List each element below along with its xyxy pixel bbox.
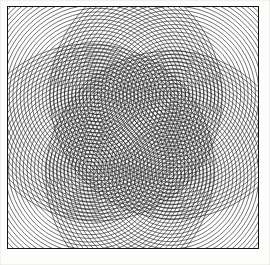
ring xyxy=(163,168,178,183)
figure-root xyxy=(0,0,270,265)
ring xyxy=(71,150,108,187)
plot-frame xyxy=(7,6,259,249)
circle-families xyxy=(8,7,258,248)
moire-pattern-canvas xyxy=(8,7,258,248)
ring xyxy=(42,41,152,151)
